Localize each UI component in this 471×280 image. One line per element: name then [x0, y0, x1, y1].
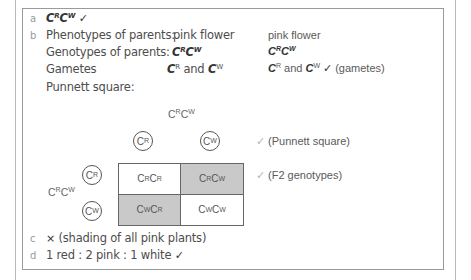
gametes-label: Gametes [46, 62, 96, 76]
outer-right-rule [455, 0, 456, 280]
genotypes-label: Genotypes of parents: [46, 45, 170, 59]
faint-tick-icon: ✓ [256, 169, 265, 181]
gametes-parent2: CR and CW ✓ (gametes) [268, 62, 385, 75]
part-c-answer: × (shading of all pink plants) [46, 231, 206, 245]
left-gamete-w: CW [82, 201, 102, 221]
left-parent-genotype: CRCW [48, 186, 75, 198]
punnett-label: Punnett square: [46, 80, 134, 94]
top-parent-genotype: CRCW [168, 108, 195, 120]
tick-icon: ✓ [323, 62, 332, 74]
tick-icon: ✓ [79, 12, 88, 25]
part-d-answer: 1 red : 2 pink : 1 white ✓ [46, 248, 184, 262]
genotype-parent2: CRCW [268, 45, 296, 57]
punnett-grid: CRCR CRCW CWCR CWCW [118, 163, 244, 226]
gametes-parent1: CR and CW [167, 62, 223, 76]
part-a-label: a [30, 13, 36, 24]
top-gamete-w: CW [200, 131, 220, 151]
cell-ww: CWCW [181, 195, 243, 226]
cell-rw: CRCW [181, 164, 243, 195]
top-gamete-r: CR [133, 131, 153, 151]
genotype-parent1: CRCW [172, 45, 201, 59]
part-c-label: c [30, 233, 36, 244]
cross-icon: × [46, 232, 55, 245]
cell-rr: CRCR [119, 164, 181, 195]
f2-mark: ✓ (F2 genotypes) [256, 169, 342, 182]
outer-left-rule [15, 0, 16, 280]
left-gamete-r: CR [82, 165, 102, 185]
part-d-label: d [30, 250, 36, 261]
phenotypes-label: Phenotypes of parents: [46, 28, 175, 42]
phenotype-parent2: pink flower [268, 29, 321, 41]
part-a-answer: CRCW ✓ [46, 11, 88, 25]
punnett-mark: ✓ (Punnett square) [256, 135, 350, 148]
phenotype-parent1: pink flower [173, 28, 234, 42]
gametes-note: (gametes) [335, 62, 385, 74]
part-b-label: b [30, 30, 36, 41]
faint-tick-icon: ✓ [256, 135, 265, 147]
cell-wr: CWCR [119, 195, 181, 226]
tick-icon: ✓ [175, 249, 184, 262]
